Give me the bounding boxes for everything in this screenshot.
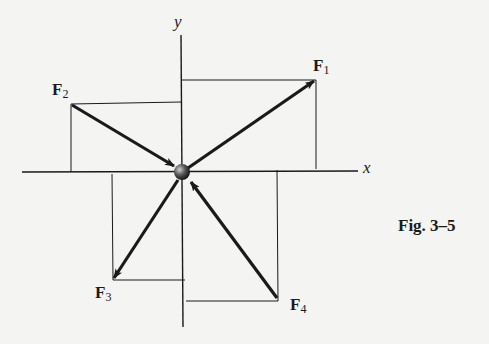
y-axis xyxy=(181,35,183,327)
f3-arrow xyxy=(114,180,178,278)
force-label-f1: F1 xyxy=(313,56,329,78)
force-label-f3: F3 xyxy=(95,283,111,305)
figure-caption: Fig. 3–5 xyxy=(398,216,456,236)
f2-arrow xyxy=(72,105,174,166)
force-label-f4: F4 xyxy=(290,295,306,317)
component-lines xyxy=(71,80,316,301)
f1-arrow xyxy=(188,81,314,168)
f4-arrow xyxy=(191,182,277,298)
force-label-f2: F2 xyxy=(52,80,68,102)
x-axis xyxy=(22,171,358,172)
axes xyxy=(22,35,358,327)
x-axis-label: x xyxy=(363,158,371,178)
particle xyxy=(174,164,190,180)
y-axis-label: y xyxy=(174,12,182,32)
force-diagram xyxy=(0,0,489,344)
